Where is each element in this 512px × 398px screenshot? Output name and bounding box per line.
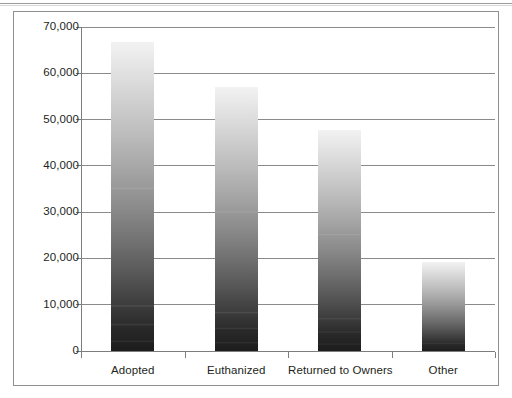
y-tick-label-10000: 10,000 bbox=[19, 299, 79, 311]
x-axis-tick-0 bbox=[81, 352, 82, 358]
y-tick-label-40000: 40,000 bbox=[19, 160, 79, 172]
x-axis-tick-4 bbox=[495, 352, 496, 358]
bar-adopted bbox=[111, 42, 154, 351]
y-tick-label-0: 0 bbox=[19, 345, 79, 357]
y-tick-label-60000: 60,000 bbox=[19, 68, 79, 80]
y-axis-spine bbox=[81, 27, 82, 352]
top-horizontal-rule-shadow bbox=[0, 5, 512, 6]
y-tick-label-50000: 50,000 bbox=[19, 114, 79, 126]
x-axis-tick-3 bbox=[392, 352, 393, 358]
x-axis-label-other: Other bbox=[392, 364, 496, 376]
x-axis-tick-2 bbox=[288, 352, 289, 358]
bar-returned-to-owners bbox=[318, 130, 361, 351]
chart-frame: 010,00020,00030,00040,00050,00060,00070,… bbox=[13, 11, 499, 386]
x-axis-label-returned-to-owners: Returned to Owners bbox=[288, 364, 392, 376]
top-horizontal-rule bbox=[0, 3, 512, 4]
x-axis-tick-1 bbox=[185, 352, 186, 358]
y-tick-label-20000: 20,000 bbox=[19, 253, 79, 265]
gridline-70000 bbox=[81, 27, 495, 28]
x-axis-label-adopted: Adopted bbox=[81, 364, 185, 376]
plot-area: 010,00020,00030,00040,00050,00060,00070,… bbox=[14, 12, 500, 387]
y-tick-label-30000: 30,000 bbox=[19, 206, 79, 218]
x-axis-label-euthanized: Euthanized bbox=[185, 364, 289, 376]
y-tick-label-70000: 70,000 bbox=[19, 21, 79, 33]
bar-other bbox=[422, 262, 465, 351]
bar-euthanized bbox=[215, 87, 258, 351]
